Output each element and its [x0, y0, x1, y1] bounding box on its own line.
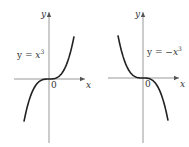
- equation-label: y = −x3: [146, 45, 182, 57]
- equation-lhs: y = −: [146, 47, 173, 57]
- equation-exponent: 3: [178, 45, 182, 52]
- y-axis-label: y: [134, 9, 141, 19]
- cubic-graphs-figure: x y 0 y = x3 x y 0 y = −x3: [0, 0, 189, 147]
- plot-y-equals-neg-x-cubed: x y 0 y = −x3: [108, 9, 185, 143]
- x-axis-label: x: [180, 79, 185, 89]
- plot-y-equals-x-cubed: x y 0 y = x3: [14, 9, 91, 143]
- origin-label: 0: [51, 80, 57, 90]
- equation-exponent: 3: [40, 48, 44, 55]
- equation-label: y = x3: [16, 48, 44, 60]
- x-axis-label: x: [86, 80, 91, 90]
- origin-label: 0: [145, 79, 151, 89]
- y-axis-label: y: [40, 9, 47, 19]
- equation-lhs: y =: [16, 50, 35, 60]
